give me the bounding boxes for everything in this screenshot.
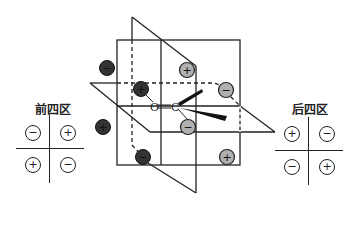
- front-sign-top-right: +: [60, 125, 76, 141]
- svg-text:−: −: [221, 84, 230, 97]
- ball-front-4: −: [136, 150, 151, 165]
- ball-back-2: −: [219, 83, 234, 98]
- ball-back-1: +: [180, 63, 195, 78]
- svg-text:−: −: [183, 121, 192, 134]
- ball-front-2: +: [134, 82, 149, 97]
- wedge-bond-upper: [178, 89, 203, 106]
- svg-text:−: −: [102, 62, 111, 75]
- atom-c: C: [171, 101, 179, 114]
- ball-front-3: +: [96, 120, 111, 135]
- back-sign-bottom-left: −: [284, 159, 300, 175]
- svg-text:−: −: [138, 151, 147, 164]
- atom-o: O: [150, 101, 159, 114]
- quad-hline: [16, 148, 84, 149]
- back-sign-top-right: −: [319, 126, 335, 142]
- quad-hline: [275, 150, 343, 151]
- front-sign-top-left: −: [25, 125, 41, 141]
- back-quadrants-title: 后四区: [292, 100, 328, 117]
- back-sign-top-left: +: [284, 126, 300, 142]
- quad-vline: [308, 117, 309, 185]
- ball-back-4: +: [220, 150, 235, 165]
- ball-back-3: −: [181, 120, 196, 135]
- front-sign-bottom-right: −: [60, 157, 76, 173]
- svg-text:+: +: [182, 64, 191, 77]
- front-quadrants: − + + −: [16, 115, 84, 183]
- ball-front-1: −: [100, 61, 115, 76]
- svg-text:+: +: [136, 83, 145, 96]
- back-quadrants: + − − +: [275, 117, 343, 185]
- quad-vline: [49, 115, 50, 183]
- front-sign-bottom-left: +: [25, 157, 41, 173]
- svg-text:+: +: [98, 121, 107, 134]
- svg-text:+: +: [222, 151, 231, 164]
- back-sign-bottom-right: +: [319, 159, 335, 175]
- bond-c-to-lower-ball: [178, 109, 188, 120]
